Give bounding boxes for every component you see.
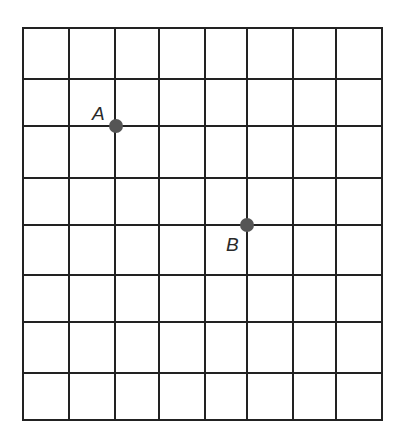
point-a-marker <box>109 119 123 133</box>
point-b-label: B <box>226 234 239 255</box>
point-b-marker <box>240 218 254 232</box>
point-a-label: A <box>91 103 105 124</box>
grid-lines <box>23 28 382 420</box>
grid-diagram: AB <box>0 0 406 443</box>
